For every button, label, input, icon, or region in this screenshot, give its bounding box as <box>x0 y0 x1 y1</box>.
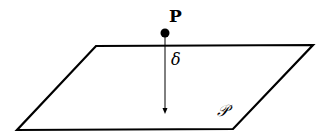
point-label: P <box>169 6 182 26</box>
plane-label: 𝒫 <box>217 101 229 120</box>
arrowhead-icon <box>163 108 168 114</box>
distance-label: δ <box>171 50 181 69</box>
point-marker <box>161 29 170 38</box>
plane-diagram <box>0 0 329 140</box>
